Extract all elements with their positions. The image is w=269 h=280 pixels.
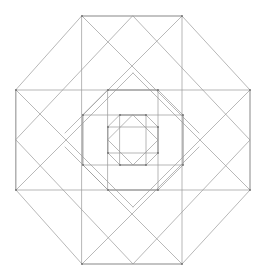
vertex-outer-e-bot [249, 189, 251, 191]
vertex-outer-s-right [181, 263, 183, 265]
vertex-outer-n-right [181, 15, 183, 17]
vertex-outer-n-left [81, 15, 83, 17]
vertex-inner-w-top [107, 126, 109, 128]
vertex-mid-w-top [82, 114, 84, 116]
vertex-mid-e-top [182, 114, 184, 116]
vertex-mid-s-right [157, 189, 159, 191]
vertex-mid-e-bot [182, 164, 184, 166]
vertex-inner-s-left [119, 164, 121, 166]
vertex-inner-e-top [157, 126, 159, 128]
geometric-figure-canvas [0, 0, 269, 280]
vertex-mid-n-right [157, 89, 159, 91]
vertex-outer-s-left [81, 263, 83, 265]
vertex-outer-w-bot [15, 189, 17, 191]
vertex-mid-s-left [107, 189, 109, 191]
vertex-mid-w-bot [82, 164, 84, 166]
vertex-inner-n-left [119, 114, 121, 116]
vertex-outer-e-top [249, 89, 251, 91]
vertex-inner-s-right [145, 164, 147, 166]
vertex-inner-w-bot [107, 152, 109, 154]
vertex-outer-w-top [15, 89, 17, 91]
vertex-mid-n-left [107, 89, 109, 91]
line-drawing-svg [0, 0, 269, 280]
figure-background [0, 0, 269, 280]
vertex-inner-n-right [145, 114, 147, 116]
vertex-inner-e-bot [157, 152, 159, 154]
